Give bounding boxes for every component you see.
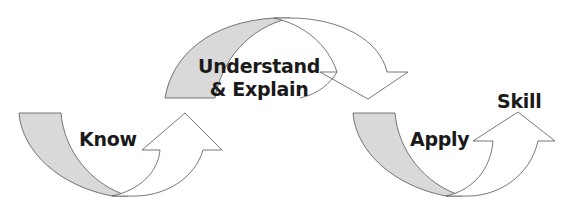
stage-label-apply: Apply bbox=[410, 128, 469, 150]
apply-arrow bbox=[353, 112, 555, 196]
learning-stages-diagram bbox=[0, 0, 572, 210]
know-arrow bbox=[19, 113, 222, 196]
outcome-label-skill: Skill bbox=[497, 90, 541, 112]
apply-arrow-shade bbox=[353, 113, 462, 196]
stage-label-understand: Understand & Explain bbox=[198, 55, 320, 101]
know-arrow-body bbox=[112, 113, 222, 196]
know-arrow-shade bbox=[19, 113, 128, 196]
stage-label-understand-line1: Understand bbox=[198, 55, 320, 78]
apply-arrow-body bbox=[446, 112, 555, 196]
stage-label-understand-line2: & Explain bbox=[198, 78, 320, 101]
stage-label-know: Know bbox=[79, 128, 137, 150]
